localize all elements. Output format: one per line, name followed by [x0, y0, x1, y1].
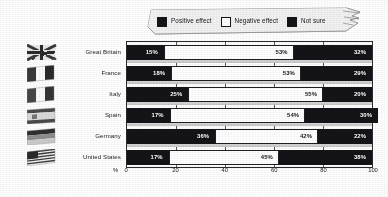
bar-row-germany[interactable]: 36% 42% 22% [127, 126, 372, 147]
legend-label-negative-effect: Negative effect [235, 18, 278, 24]
bar-value-notsure: 38% [354, 155, 366, 161]
country-label-spain: Spain [105, 112, 121, 118]
bar-segment-negative[interactable]: 53% [164, 45, 294, 60]
legend-label-not-sure: Not sure [301, 18, 326, 24]
bar-segment-notsure[interactable]: 29% [301, 66, 372, 81]
legend-swatch-dark-icon [287, 17, 297, 27]
bar-value-notsure: 29% [354, 71, 366, 77]
bar-segment-notsure[interactable]: 32% [294, 45, 372, 60]
legend-banner: Positive effect Negative effect Not sure [147, 7, 362, 36]
bar-value-negative: 54% [287, 113, 299, 119]
flag-italy-icon [27, 84, 69, 105]
bar-value-notsure: 30% [360, 113, 372, 119]
bar-segment-negative[interactable]: 45% [169, 150, 279, 165]
bar-row-france[interactable]: 18% 53% 29% [127, 63, 372, 84]
axis-tick-100: 100 [368, 168, 378, 174]
country-row-united-states: United States [68, 147, 121, 168]
country-label-france: France [101, 70, 121, 76]
bar-value-notsure: 20% [354, 92, 366, 98]
legend-items: Positive effect Negative effect Not sure [157, 14, 326, 29]
axis-tick-0: 0 [124, 168, 127, 174]
bar-segment-notsure[interactable]: 30% [305, 108, 378, 123]
country-row-italy: Italy [68, 84, 121, 105]
flag-spain-icon [27, 105, 69, 126]
bar-segment-positive[interactable]: 36% [127, 129, 215, 144]
bar-value-negative: 53% [276, 50, 288, 56]
legend-swatch-light-icon [221, 17, 231, 27]
axis-tick-80: 80 [320, 168, 326, 174]
legend-item-not-sure[interactable]: Not sure [287, 17, 326, 27]
bar-row-italy[interactable]: 25% 55% 20% [127, 84, 372, 105]
bar-value-negative: 55% [305, 92, 317, 98]
bar-value-negative: 53% [283, 71, 295, 77]
bar-segment-positive[interactable]: 15% [127, 45, 164, 60]
legend-item-positive-effect[interactable]: Positive effect [157, 17, 212, 27]
country-row-great-britain: Great Britain [68, 42, 121, 63]
country-label-great-britain: Great Britain [85, 49, 121, 55]
bar-value-positive: 36% [197, 134, 209, 140]
bar-row-great-britain[interactable]: 15% 53% 32% [127, 42, 372, 63]
bar-segment-negative[interactable]: 54% [170, 108, 306, 123]
bar-value-positive: 15% [146, 50, 158, 56]
bar-value-positive: 18% [153, 71, 165, 77]
bar-value-positive: 25% [170, 92, 182, 98]
bar-row-spain[interactable]: 17% 54% 30% [127, 105, 372, 126]
country-label-germany: Germany [95, 133, 121, 139]
country-row-germany: Germany [68, 126, 121, 147]
x-axis: 0 20 40 60 80 100 [126, 168, 373, 180]
flag-germany-icon [27, 126, 69, 147]
bar-value-notsure: 32% [354, 50, 366, 56]
bar-segment-positive[interactable]: 17% [127, 108, 170, 123]
bar-value-positive: 17% [152, 113, 164, 119]
bar-rows: 15% 53% 32% 18% 53% 29% [127, 42, 372, 167]
axis-tick-20: 20 [172, 168, 178, 174]
legend-item-negative-effect[interactable]: Negative effect [221, 17, 278, 27]
flag-france-icon [27, 63, 69, 84]
bar-segment-positive[interactable]: 25% [127, 87, 188, 102]
country-row-france: France [68, 63, 121, 84]
bar-segment-notsure[interactable]: 22% [318, 129, 372, 144]
legend-label-positive-effect: Positive effect [171, 18, 212, 24]
axis-unit-label: % [113, 168, 118, 174]
country-row-spain: Spain [68, 105, 121, 126]
flag-great-britain-icon [27, 42, 69, 63]
axis-tick-40: 40 [222, 168, 228, 174]
bar-segment-positive[interactable]: 18% [127, 66, 171, 81]
country-label-column: Great Britain France Italy Spain Germany… [68, 42, 121, 168]
bar-value-negative: 42% [300, 134, 312, 140]
bar-segment-negative[interactable]: 42% [215, 129, 318, 144]
country-label-italy: Italy [109, 91, 121, 97]
chart-plot-area: 15% 53% 32% 18% 53% 29% [126, 41, 373, 168]
bar-value-negative: 45% [261, 155, 273, 161]
bar-segment-notsure[interactable]: 38% [279, 150, 372, 165]
bar-segment-negative[interactable]: 55% [188, 87, 323, 102]
bar-value-positive: 17% [151, 155, 163, 161]
country-label-united-states: United States [83, 154, 121, 160]
bar-segment-positive[interactable]: 17% [127, 150, 169, 165]
flag-united-states-icon [27, 147, 69, 168]
legend-swatch-dark-icon [157, 17, 167, 27]
axis-tick-60: 60 [271, 168, 277, 174]
bar-segment-negative[interactable]: 53% [171, 66, 301, 81]
bar-row-united-states[interactable]: 17% 45% 38% [127, 147, 372, 168]
bar-segment-notsure[interactable]: 20% [323, 87, 372, 102]
bar-value-notsure: 22% [354, 134, 366, 140]
flag-column [27, 42, 69, 168]
